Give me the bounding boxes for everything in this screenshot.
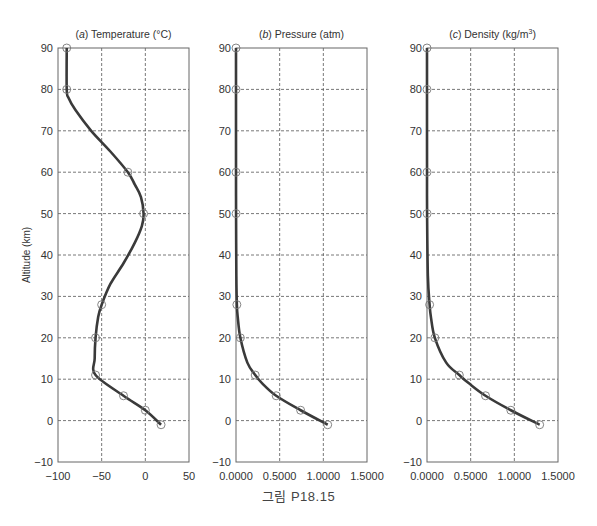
- y-tick-label: 0: [47, 415, 53, 427]
- y-tick-label: 30: [219, 290, 231, 302]
- y-tick-label: 90: [410, 42, 422, 54]
- y-tick-label: 0: [416, 415, 422, 427]
- plot-title: (b) Pressure (atm): [259, 28, 344, 40]
- y-tick-label: 70: [410, 125, 422, 137]
- y-tick-label: 20: [219, 332, 231, 344]
- x-tick-label: 0.0000: [410, 470, 444, 482]
- density-plot: −1001020304050607080900.00000.50001.0000…: [403, 28, 575, 482]
- data-curve: [427, 48, 540, 425]
- y-tick-label: 0: [225, 415, 231, 427]
- y-tick-label: 20: [410, 332, 422, 344]
- y-tick-label: 60: [41, 166, 53, 178]
- x-tick-label: −50: [92, 470, 111, 482]
- y-tick-label: 50: [41, 208, 53, 220]
- temperature-plot: −100102030405060708090−100−50050(a) Temp…: [34, 28, 195, 482]
- y-tick-label: 60: [219, 166, 231, 178]
- y-tick-label: 10: [410, 373, 422, 385]
- y-tick-label: 50: [219, 208, 231, 220]
- y-tick-label: −10: [212, 456, 231, 468]
- y-tick-label: 80: [219, 83, 231, 95]
- plot-title: (a) Temperature (°C): [75, 28, 171, 40]
- y-tick-label: 60: [410, 166, 422, 178]
- x-tick-label: 1.0000: [498, 470, 532, 482]
- y-tick-label: 40: [41, 249, 53, 261]
- y-tick-label: 20: [41, 332, 53, 344]
- y-tick-label: 80: [41, 83, 53, 95]
- y-tick-label: 70: [219, 125, 231, 137]
- x-tick-label: 0.0000: [219, 470, 253, 482]
- y-axis-label: Altitude (km): [21, 227, 32, 283]
- x-tick-label: −100: [46, 470, 71, 482]
- plot-title: (c) Density (kg/m3): [449, 28, 536, 40]
- y-tick-label: 10: [41, 373, 53, 385]
- x-tick-label: 1.5000: [350, 470, 384, 482]
- y-tick-label: 30: [41, 290, 53, 302]
- figure-caption: 그림 P18.15: [0, 486, 597, 505]
- y-tick-label: 30: [410, 290, 422, 302]
- figure-canvas: Altitude (km) −100102030405060708090−100…: [0, 0, 597, 526]
- y-tick-label: 80: [410, 83, 422, 95]
- x-tick-label: 1.5000: [541, 470, 575, 482]
- x-tick-label: 50: [183, 470, 195, 482]
- data-curve: [67, 48, 161, 425]
- data-curve: [236, 48, 328, 425]
- y-tick-label: 10: [219, 373, 231, 385]
- x-tick-label: 0: [142, 470, 148, 482]
- pressure-plot: −1001020304050607080900.00000.50001.0000…: [212, 28, 384, 482]
- y-tick-label: 90: [219, 42, 231, 54]
- x-tick-label: 1.0000: [307, 470, 341, 482]
- x-tick-label: 0.5000: [454, 470, 488, 482]
- y-tick-label: 50: [410, 208, 422, 220]
- x-tick-label: 0.5000: [263, 470, 297, 482]
- y-tick-label: 40: [410, 249, 422, 261]
- y-tick-label: 70: [41, 125, 53, 137]
- y-tick-label: −10: [403, 456, 422, 468]
- y-tick-label: 40: [219, 249, 231, 261]
- y-tick-label: −10: [34, 456, 53, 468]
- y-tick-label: 90: [41, 42, 53, 54]
